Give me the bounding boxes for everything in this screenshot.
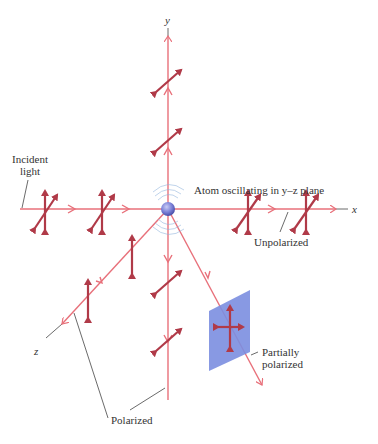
incident-light-label: Incident light — [4, 153, 56, 177]
oscillation-arrows — [35, 70, 318, 351]
x-axis-label: x — [352, 203, 357, 215]
atom-icon — [161, 202, 175, 216]
z-ray — [62, 209, 168, 324]
y-axis-label: y — [165, 14, 170, 26]
polarized-label: Polarized — [111, 414, 153, 426]
partially-polarized-label: Partially polarized — [262, 346, 303, 370]
polarization-diagram — [0, 0, 378, 444]
atom-label: Atom oscillating in y–z plane — [194, 184, 324, 196]
z-axis-label: z — [34, 345, 38, 357]
unpolarized-label: Unpolarized — [254, 236, 308, 248]
